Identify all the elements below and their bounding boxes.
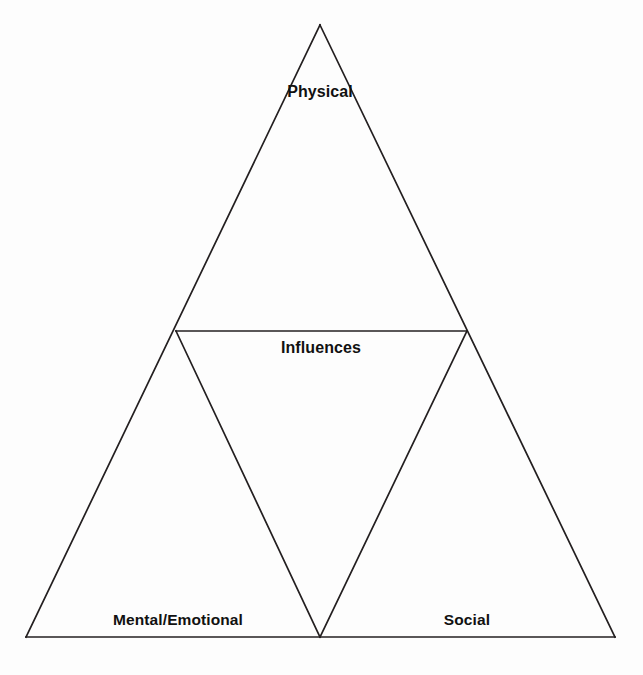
label-mental-emotional: Mental/Emotional <box>113 612 243 628</box>
inner-triangle-right-edge <box>320 331 467 637</box>
inner-triangle-left-edge <box>176 331 320 637</box>
health-triangle-diagram: Physical Influences Mental/Emotional Soc… <box>0 0 643 675</box>
triangle-graphic <box>0 0 643 675</box>
label-influences: Influences <box>281 340 361 356</box>
label-physical: Physical <box>287 84 353 100</box>
label-social: Social <box>444 612 490 628</box>
